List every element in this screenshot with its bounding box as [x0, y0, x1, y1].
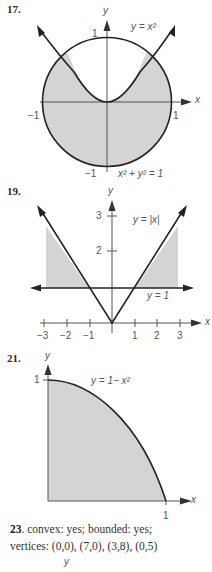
graph-21-y-label: y [45, 350, 50, 361]
graph-19-xtick: −3 [37, 330, 48, 341]
graph-19-y-label: y [108, 185, 113, 196]
shaded-region-right [135, 226, 178, 288]
graph-21-x-label: x [191, 494, 196, 505]
graph-17-curve-label: y = x² [131, 21, 156, 32]
x-axis-arrow-icon [181, 99, 192, 106]
graph-19-x-label: x [205, 316, 210, 327]
graph-19-curve-label: y = |x| [133, 214, 160, 225]
graph-21-xtick-1: 1 [163, 510, 169, 521]
graph-17-tick-left: −1 [28, 110, 39, 121]
problem-23-text-1: . convex: yes; bounded: yes; [22, 523, 153, 535]
problem-23-number: 23 [10, 523, 22, 535]
graph-17-tick-right: 1 [173, 110, 179, 121]
graph-19-ytick-2: 2 [96, 245, 102, 256]
graph-19-xtick: −2 [60, 330, 71, 341]
y-axis-arrow-icon [104, 20, 111, 31]
problem-23-answer-line2: vertices: (0,0), (7,0), (3,8), (0,5) [10, 540, 157, 552]
graph-19-xtick: 1 [132, 330, 138, 341]
y-axis-arrow-icon [45, 364, 52, 375]
parabola-arrow-right-icon [169, 25, 175, 37]
graph-19-line-label: y = 1 [147, 290, 169, 301]
graph-17-tick-top: 1 [92, 28, 98, 39]
graph-17 [0, 0, 212, 175]
graph-17-x-label: x [195, 94, 200, 105]
shaded-region-left [46, 226, 89, 288]
line-arrow-left-icon [30, 285, 41, 292]
line-arrow-right-icon [183, 285, 194, 292]
graph-21-ytick-1: 1 [34, 374, 40, 385]
graph-19-xtick: −1 [83, 330, 94, 341]
graph-19 [0, 180, 212, 340]
graph-17-circle-label: x² + y² = 1 [118, 168, 163, 179]
graph-19-xtick: 3 [177, 330, 183, 341]
graph-17-tick-bottom: −1 [85, 168, 96, 179]
graph-19-xtick: 2 [154, 330, 160, 341]
problem-23-y-label: y [64, 556, 69, 567]
x-axis-arrow-icon [191, 320, 202, 327]
shaded-region [48, 380, 166, 501]
problem-23-answer-line1: 23. convex: yes; bounded: yes; [10, 523, 152, 535]
y-axis-arrow-icon [109, 200, 116, 211]
graph-21-curve-label: y = 1− x² [91, 375, 130, 386]
graph-17-y-label: y [103, 5, 108, 16]
graph-19-ytick-3: 3 [96, 210, 102, 221]
